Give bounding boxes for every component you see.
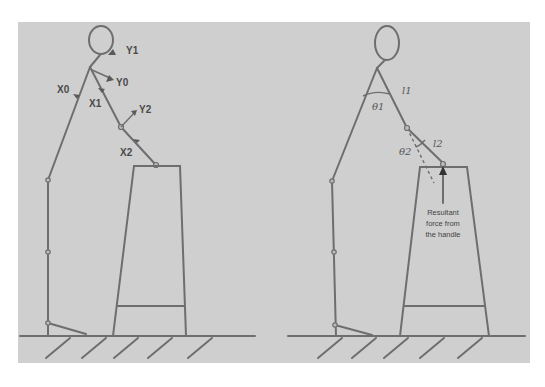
label-theta2: θ2 <box>399 146 411 157</box>
right-figure <box>288 26 525 358</box>
label-y2: Y2 <box>139 104 152 115</box>
foot-left <box>48 323 86 334</box>
torso-right <box>332 68 377 181</box>
neck-left <box>90 55 100 67</box>
label-y0: Y0 <box>116 77 129 88</box>
ground-hatching-left <box>46 338 212 358</box>
upper-arm-right <box>377 68 407 128</box>
label-theta1: θ1 <box>372 101 384 112</box>
cart-right <box>400 167 489 336</box>
diagram-canvas: Y1 Y0 X0 X1 Y2 X2 <box>0 0 545 387</box>
label-l1: l1 <box>402 85 412 96</box>
force-note-line-1: Resultant <box>427 208 460 217</box>
label-l2: l2 <box>433 138 443 149</box>
left-figure <box>20 26 255 358</box>
neck-right <box>377 60 385 68</box>
head-left <box>89 26 113 54</box>
force-note-line-3: the handle <box>425 230 460 239</box>
head-right <box>375 26 399 60</box>
label-x2: X2 <box>120 147 133 158</box>
y2-axis-line <box>121 112 135 127</box>
label-x0: X0 <box>57 84 70 95</box>
right-labels: l1 θ1 l2 θ2 Resultant force from the han… <box>372 85 461 239</box>
forearm-left <box>121 127 156 165</box>
leg-right <box>332 181 336 336</box>
foot-right <box>335 325 372 335</box>
force-note-line-2: force from <box>426 219 460 228</box>
ground-hatching-right <box>318 338 482 358</box>
cart-left <box>113 166 186 336</box>
label-x1: X1 <box>89 98 102 109</box>
label-y1: Y1 <box>126 45 139 56</box>
